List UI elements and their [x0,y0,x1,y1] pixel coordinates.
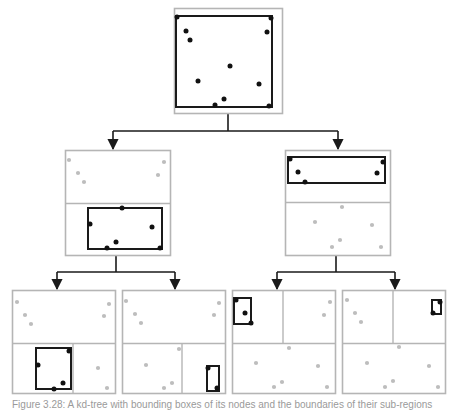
inactive-point [212,313,216,317]
inactive-point [133,312,137,316]
data-point [184,29,189,34]
inactive-point [139,321,143,325]
data-point [114,240,119,245]
inactive-point [105,386,109,390]
connector [277,255,395,289]
data-point [381,160,386,165]
inactive-point [340,205,344,209]
inactive-point [107,302,111,306]
region-border [123,291,226,394]
inactive-point [436,385,440,389]
data-point [215,386,220,391]
connector [57,255,175,289]
data-point [243,311,248,316]
inactive-point [345,298,349,302]
data-point [265,30,270,35]
data-point [288,157,293,162]
data-point [249,321,254,326]
inactive-point [365,361,369,365]
inactive-point [76,171,80,175]
inactive-point [162,160,166,164]
data-point [158,246,163,251]
inactive-point [272,385,276,389]
inactive-point [328,300,332,304]
leaf-node-right-left [232,291,336,394]
right-child-node [285,151,391,256]
data-point [375,171,380,176]
inactive-point [359,320,363,324]
inactive-point [280,380,284,384]
region-border [233,291,336,394]
inactive-point [397,345,401,349]
inactive-point [217,301,221,305]
data-point [228,64,233,69]
region-border [175,9,283,114]
connector [113,113,338,149]
leaf-node-left-left [12,291,116,394]
inactive-point [156,173,160,177]
kd-tree-diagram [0,0,455,411]
data-point [175,15,180,20]
inactive-point [338,238,342,242]
data-point [213,103,218,108]
inactive-point [313,220,317,224]
inactive-point [427,364,431,368]
inactive-point [379,245,383,249]
data-point [431,311,436,316]
data-point [267,104,272,109]
data-point [257,82,262,87]
inactive-point [316,364,320,368]
data-point [36,363,41,368]
data-point [206,366,211,371]
data-point [88,222,93,227]
inactive-point [287,346,291,350]
data-point [67,349,72,354]
inactive-point [170,381,174,385]
inactive-point [391,379,395,383]
tree-nodes [12,9,446,394]
inactive-point [29,322,33,326]
data-point [234,298,239,303]
inactive-point [15,300,19,304]
data-point [188,38,193,43]
data-point [438,300,443,305]
inactive-point [96,366,100,370]
inactive-point [325,385,329,389]
leaf-node-left-right [122,291,226,394]
inactive-point [144,363,148,367]
inactive-point [82,180,86,184]
inactive-point [254,361,258,365]
inactive-point [124,299,128,303]
data-point [222,97,227,102]
inactive-point [23,313,27,317]
data-point [296,170,301,175]
figure-caption: Figure 3.28: A kd-tree with bounding box… [12,399,432,410]
inactive-point [162,386,166,390]
inactive-point [322,313,326,317]
data-point [150,225,155,230]
region-border [13,291,116,394]
root-node [175,9,283,114]
region-border [343,291,446,394]
data-point [52,387,57,392]
inactive-point [67,158,71,162]
data-point [61,381,66,386]
data-point [105,246,110,251]
data-point [196,79,201,84]
inactive-point [330,245,334,249]
leaf-node-right-right [342,291,446,394]
data-point [120,206,125,211]
inactive-point [353,311,357,315]
inactive-point [370,223,374,227]
left-child-node [65,151,171,256]
data-point [269,16,274,21]
inactive-point [383,385,387,389]
inactive-point [102,314,106,318]
inactive-point [177,347,181,351]
data-point [303,180,308,185]
